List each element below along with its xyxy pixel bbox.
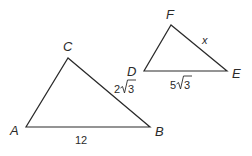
vertex-label-a: A [9, 123, 19, 138]
triangle-def: D E F x 5 3 [127, 7, 241, 91]
vertex-label-e: E [232, 66, 241, 81]
vertex-label-c: C [63, 39, 73, 54]
side-label-bc: 2 3 [114, 80, 136, 95]
side-label-bc-radicand: 3 [128, 83, 134, 95]
triangle-abc: A B C 12 2 3 [9, 39, 164, 146]
side-label-de-coefficient: 5 [170, 79, 176, 91]
vertex-label-d: D [127, 64, 136, 79]
side-label-de-radicand: 3 [184, 79, 190, 91]
side-label-ef: x [201, 34, 208, 46]
diagram-svg: A B C 12 2 3 D E F x 5 3 [0, 0, 252, 156]
vertex-label-f: F [166, 7, 175, 22]
side-label-de: 5 3 [170, 76, 192, 91]
side-label-bc-coefficient: 2 [114, 83, 120, 95]
triangle-def-outline [144, 25, 227, 71]
similar-triangles-diagram: A B C 12 2 3 D E F x 5 3 [0, 0, 252, 156]
vertex-label-b: B [155, 124, 164, 139]
side-label-ab: 12 [75, 134, 87, 146]
